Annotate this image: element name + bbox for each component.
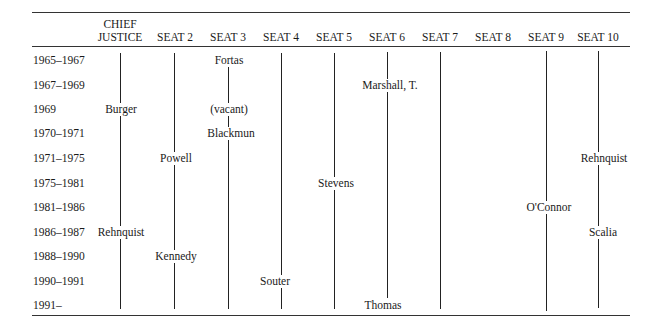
bottom-rule (32, 315, 630, 316)
row-label: 1969 (33, 103, 56, 116)
tenure-line-seat-2 (174, 53, 175, 309)
justice-name: O'Connor (526, 201, 573, 214)
row-label: 1965–1967 (33, 54, 85, 67)
row-label: 1967–1969 (33, 79, 85, 92)
row-label: 1988–1990 (33, 250, 85, 263)
header-seat-4: SEAT 4 (251, 31, 311, 44)
header-seat-9: SEAT 9 (516, 31, 576, 44)
top-rule (32, 12, 630, 13)
tenure-line-chief (120, 53, 121, 309)
row-label: 1991– (33, 299, 62, 312)
tenure-line-seat-9 (546, 51, 547, 311)
tenure-line-seat-10 (598, 51, 599, 308)
header-chief-justice: CHIEF JUSTICE (90, 18, 150, 44)
justice-name: Rehnquist (97, 226, 146, 239)
header-seat-6: SEAT 6 (357, 31, 417, 44)
row-label: 1990–1991 (33, 275, 85, 288)
header-chief-line1: CHIEF (90, 18, 150, 31)
header-rule (32, 46, 630, 47)
header-seat-7: SEAT 7 (410, 31, 470, 44)
justice-name: Marshall, T. (361, 79, 418, 92)
justice-name: Stevens (317, 177, 355, 190)
header-seat-2: SEAT 2 (145, 31, 205, 44)
justice-name: Scalia (588, 226, 618, 239)
row-label: 1975–1981 (33, 177, 85, 190)
justice-name: Rehnquist (580, 152, 629, 165)
justice-name: Powell (159, 152, 193, 165)
row-label: 1981–1986 (33, 201, 85, 214)
justice-name: Thomas (363, 299, 402, 312)
justice-name: Blackmun (206, 127, 255, 140)
row-label: 1970–1971 (33, 127, 85, 140)
header-seat-8: SEAT 8 (463, 31, 523, 44)
tenure-line-seat-7 (440, 52, 441, 309)
justice-name: (vacant) (209, 103, 249, 116)
header-seat-10: SEAT 10 (568, 31, 628, 44)
justice-name: Souter (259, 275, 291, 288)
justice-name: Burger (104, 103, 138, 116)
justice-name: Kennedy (154, 250, 198, 263)
justice-name: Fortas (214, 54, 245, 67)
header-seat-5: SEAT 5 (304, 31, 364, 44)
row-label: 1971–1975 (33, 152, 85, 165)
header-chief-line2: JUSTICE (90, 31, 150, 44)
tenure-line-seat-4 (281, 53, 282, 309)
row-label: 1986–1987 (33, 226, 85, 239)
header-seat-3: SEAT 3 (198, 31, 258, 44)
